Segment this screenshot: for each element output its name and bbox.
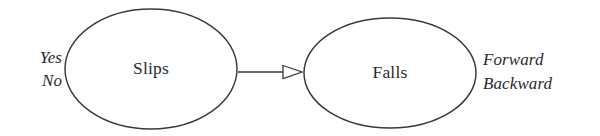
node-falls-label: Falls: [372, 62, 407, 82]
network-diagram: Slips Falls Yes No Forward Backward: [0, 0, 600, 136]
node-slips-label: Slips: [133, 58, 169, 78]
state-label-slips-no: No: [41, 71, 62, 90]
edge-slips-to-falls-arrowhead-icon: [283, 66, 302, 79]
state-label-slips-yes: Yes: [40, 48, 63, 67]
state-label-falls-forward: Forward: [482, 50, 544, 69]
diagram-canvas: Slips Falls Yes No Forward Backward: [0, 0, 600, 136]
state-label-falls-backward: Backward: [483, 74, 552, 93]
